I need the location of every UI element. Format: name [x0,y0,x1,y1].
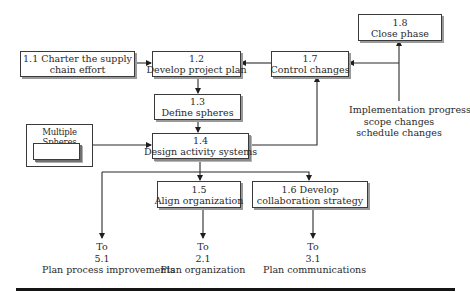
output-5-1-line1: To [42,241,162,253]
output-5-1-line2: 5.1 [42,253,162,265]
node-1-6-line2: collaboration strategy [257,195,363,206]
node-1-7-control-changes[interactable]: 1.7 Control changes [271,51,349,77]
node-1-1-line1: 1.1 Charter the supply [23,53,132,64]
multiple-spheres-container[interactable]: Multiple Spheres [26,124,93,167]
edge-1-4-to-1-7 [249,77,317,145]
output-to-5-1: To 5.1 Plan process improvements [42,241,162,276]
node-1-1-charter-supply-chain-effort[interactable]: 1.1 Charter the supply chain effort [20,51,135,77]
node-1-3-line2: Define spheres [161,107,233,118]
output-3-1-line3: Plan communications [263,264,363,276]
node-1-7-line2: Control changes [270,64,349,75]
node-1-4-design-activity-systems[interactable]: 1.4 Design activity systems [152,133,249,159]
changes-line2: scope changes [349,116,449,128]
node-1-2-line2: Develop project plan [146,64,246,75]
node-1-5-line1: 1.5 [191,184,206,195]
edge-1-4-to-1-6 [102,172,309,180]
changes-line1: Implementation progress [349,104,449,116]
output-2-1-line2: 2.1 [158,253,248,265]
output-2-1-line3: Plan organization [158,264,248,276]
node-1-8-line2: Close phase [371,28,429,39]
stacked-documents-icon [33,143,80,160]
node-1-2-develop-project-plan[interactable]: 1.2 Develop project plan [152,51,241,77]
node-1-4-line1: 1.4 [193,135,208,146]
node-1-5-line2: Align organization [155,195,244,206]
node-1-5-align-organization[interactable]: 1.5 Align organization [157,181,241,208]
bottom-rule-divider [16,288,455,291]
node-1-3-line1: 1.3 [190,96,205,107]
changes-input-label: Implementation progress scope changes sc… [349,104,449,139]
node-1-1-line2: chain effort [50,64,106,75]
output-3-1-line2: 3.1 [263,253,363,265]
node-1-8-close-phase[interactable]: 1.8 Close phase [358,14,442,41]
output-3-1-line1: To [263,241,363,253]
node-1-7-line1: 1.7 [302,53,317,64]
node-1-6-develop-collaboration-strategy[interactable]: 1.6 Develop collaboration strategy [252,181,368,208]
output-to-2-1: To 2.1 Plan organization [158,241,248,276]
node-1-2-line1: 1.2 [189,53,204,64]
output-to-3-1: To 3.1 Plan communications [263,241,363,276]
node-1-6-line1: 1.6 Develop [281,184,338,195]
output-2-1-line1: To [158,241,248,253]
changes-line3: schedule changes [349,127,449,139]
output-5-1-line3: Plan process improvements [42,264,162,276]
node-1-3-define-spheres[interactable]: 1.3 Define spheres [154,94,241,120]
node-1-8-line1: 1.8 [392,17,407,28]
node-1-4-line2: Design activity systems [144,146,257,157]
